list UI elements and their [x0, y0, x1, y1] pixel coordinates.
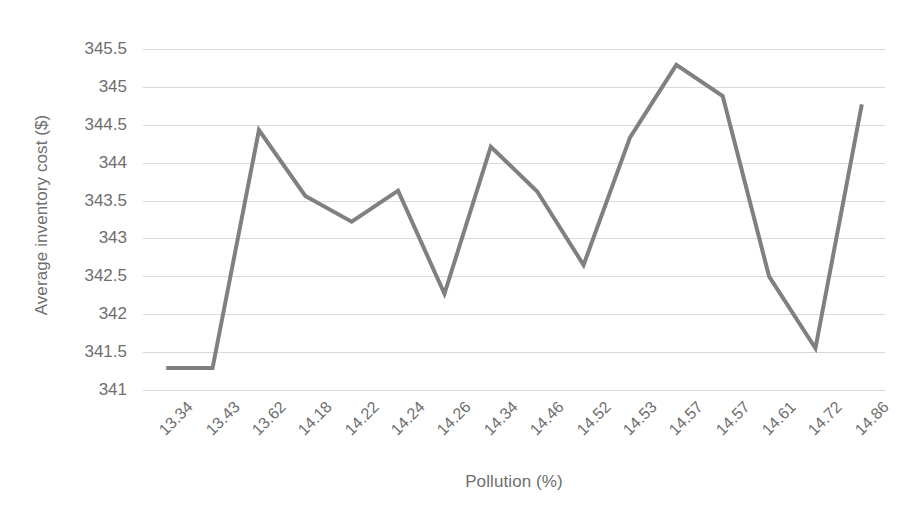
y-axis-tick-label: 342 [99, 304, 127, 324]
line-chart: Average inventory cost ($) 345.5345344.5… [0, 0, 899, 527]
y-axis-tick-label: 345 [99, 77, 127, 97]
y-axis-tick-label: 342.5 [84, 266, 127, 286]
plot-area [143, 49, 885, 390]
data-line-average-inventory-cost [166, 65, 862, 368]
x-axis-title: Pollution (%) [143, 472, 885, 492]
x-axis-tick-labels: 13.3413.4313.6214.1814.2214.2414.2614.34… [143, 392, 885, 472]
y-axis-tick-label: 345.5 [84, 39, 127, 59]
y-axis-tick-label: 344 [99, 153, 127, 173]
y-axis-tick-labels: 345.5345344.5344343.5343342.5342341.5341 [55, 0, 135, 527]
y-axis-tick-label: 343.5 [84, 191, 127, 211]
series-layer [143, 49, 885, 390]
y-axis-tick-label: 341.5 [84, 342, 127, 362]
y-axis-tick-label: 343 [99, 228, 127, 248]
y-axis-tick-label: 344.5 [84, 115, 127, 135]
gridline [143, 390, 885, 391]
y-axis-tick-label: 341 [99, 380, 127, 400]
